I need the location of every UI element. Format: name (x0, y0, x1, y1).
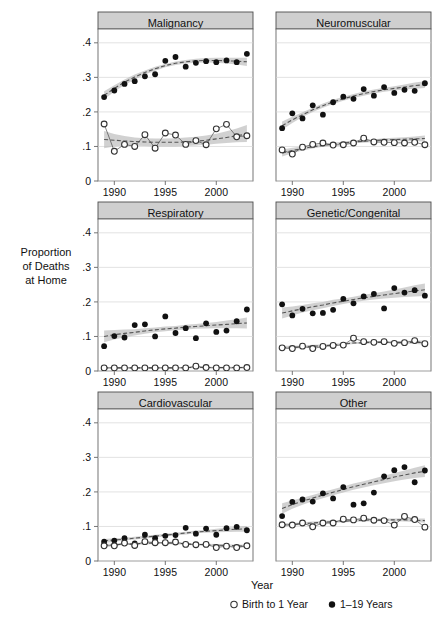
x-axis-title: Year (251, 579, 274, 591)
data-point-1-19-years (152, 334, 158, 340)
data-point-birth-to-1-year (203, 142, 209, 148)
y-tick-label: .4 (82, 226, 91, 238)
data-point-birth-to-1-year (310, 141, 316, 147)
data-point-1-19-years (412, 88, 418, 94)
data-point-birth-to-1-year (351, 140, 357, 146)
data-point-1-19-years (132, 322, 138, 328)
x-tick-label: 1995 (332, 376, 356, 388)
data-point-birth-to-1-year (300, 144, 306, 150)
data-point-birth-to-1-year (122, 141, 128, 147)
data-point-1-19-years (381, 473, 387, 479)
data-point-1-19-years (381, 84, 387, 90)
data-point-1-19-years (203, 58, 209, 64)
legend-label-1-19-years: 1–19 Years (340, 598, 393, 610)
data-point-1-19-years (224, 525, 230, 531)
data-point-birth-to-1-year (111, 148, 117, 154)
data-point-1-19-years (391, 467, 397, 473)
data-point-birth-to-1-year (162, 540, 168, 546)
data-point-1-19-years (203, 526, 209, 532)
data-point-1-19-years (300, 306, 306, 312)
data-point-birth-to-1-year (300, 520, 306, 526)
data-point-birth-to-1-year (279, 345, 285, 351)
panel-genetic-congenital: Genetic/Congenital199019952000 (276, 202, 431, 388)
data-point-birth-to-1-year (289, 522, 295, 528)
data-point-birth-to-1-year (402, 340, 408, 346)
data-point-birth-to-1-year (244, 543, 250, 549)
panel-neuromuscular: Neuromuscular199019952000 (276, 12, 431, 198)
y-tick-label: .2 (82, 296, 91, 308)
data-point-1-19-years (340, 484, 346, 490)
data-point-1-19-years (391, 90, 397, 96)
data-point-birth-to-1-year (371, 139, 377, 145)
data-point-birth-to-1-year (310, 524, 316, 530)
data-point-1-19-years (402, 87, 408, 93)
x-tick-label: 2000 (205, 186, 229, 198)
data-point-birth-to-1-year (422, 524, 428, 530)
data-point-birth-to-1-year (381, 339, 387, 345)
data-point-birth-to-1-year (289, 346, 295, 352)
data-point-birth-to-1-year (320, 344, 326, 350)
data-point-1-19-years (310, 310, 316, 316)
legend-marker-filled-circle-icon (329, 601, 335, 607)
data-point-birth-to-1-year (101, 121, 107, 127)
y-axis-title: Proportionof Deathsat Home (21, 246, 72, 286)
data-point-birth-to-1-year (244, 365, 250, 371)
y-tick-label: 0 (85, 555, 91, 567)
data-point-1-19-years (402, 464, 408, 470)
data-point-birth-to-1-year (422, 142, 428, 148)
data-point-birth-to-1-year (381, 518, 387, 524)
data-point-birth-to-1-year (330, 142, 336, 148)
panel-title-other: Other (340, 397, 368, 409)
data-point-birth-to-1-year (351, 517, 357, 523)
data-point-birth-to-1-year (402, 514, 408, 520)
data-point-birth-to-1-year (142, 539, 148, 545)
data-point-1-19-years (351, 96, 357, 102)
data-point-1-19-years (351, 502, 357, 508)
data-point-1-19-years (162, 314, 168, 320)
y-tick-label: 0 (85, 175, 91, 187)
data-point-birth-to-1-year (193, 542, 199, 548)
data-point-1-19-years (371, 490, 377, 496)
data-point-birth-to-1-year (320, 520, 326, 526)
data-point-1-19-years (183, 325, 189, 331)
data-point-birth-to-1-year (340, 342, 346, 348)
data-point-birth-to-1-year (142, 132, 148, 138)
data-point-birth-to-1-year (234, 134, 240, 140)
panel-malignancy: Malignancy1990199520000.1.2.3.4 (82, 12, 253, 198)
data-point-1-19-years (330, 307, 336, 313)
y-tick-label: .1 (82, 330, 91, 342)
panel-cardiovascular: Cardiovascular1990199520000.1.2.3.4 (82, 392, 253, 578)
data-point-1-19-years (310, 102, 316, 108)
data-point-birth-to-1-year (183, 542, 189, 548)
data-point-1-19-years (101, 94, 107, 100)
x-tick-label: 2000 (383, 566, 407, 578)
data-point-1-19-years (279, 301, 285, 307)
data-point-1-19-years (132, 78, 138, 84)
data-point-birth-to-1-year (320, 140, 326, 146)
data-point-birth-to-1-year (122, 540, 128, 546)
data-point-1-19-years (213, 59, 219, 65)
plot-frame (98, 29, 253, 181)
x-tick-label: 2000 (205, 566, 229, 578)
data-point-birth-to-1-year (310, 346, 316, 352)
y-tick-label: .1 (82, 140, 91, 152)
data-point-1-19-years (142, 73, 148, 79)
data-point-1-19-years (183, 525, 189, 531)
data-point-birth-to-1-year (371, 517, 377, 523)
data-point-birth-to-1-year (340, 142, 346, 148)
figure-container: Malignancy1990199520000.1.2.3.4Neuromusc… (0, 0, 440, 620)
data-point-1-19-years (173, 54, 179, 60)
data-point-birth-to-1-year (300, 343, 306, 349)
data-point-birth-to-1-year (132, 365, 138, 371)
data-point-birth-to-1-year (371, 339, 377, 345)
data-point-birth-to-1-year (122, 365, 128, 371)
data-point-1-19-years (402, 290, 408, 296)
legend-label-birth-to-1-year: Birth to 1 Year (242, 598, 308, 610)
data-point-birth-to-1-year (152, 540, 158, 546)
data-point-1-19-years (320, 310, 326, 316)
y-tick-label: .4 (82, 416, 91, 428)
data-point-1-19-years (361, 293, 367, 299)
data-point-1-19-years (162, 58, 168, 64)
data-point-birth-to-1-year (224, 543, 230, 549)
data-point-birth-to-1-year (203, 542, 209, 548)
